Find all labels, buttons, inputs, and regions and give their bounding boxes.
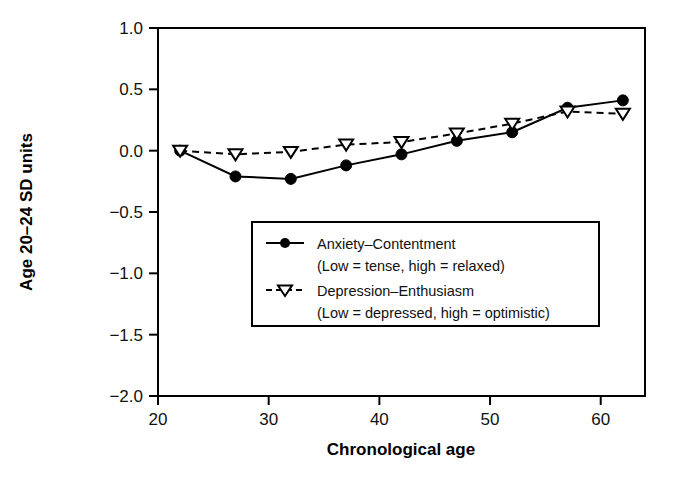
y-tick-label: 0.5	[119, 80, 143, 99]
x-axis-title: Chronological age	[327, 440, 475, 459]
y-tick-label: −1.0	[109, 264, 143, 283]
legend-sublabel-1: (Low = tense, high = relaxed)	[317, 258, 505, 274]
y-tick-label: 0.0	[119, 142, 143, 161]
x-tick-label: 30	[259, 410, 278, 429]
x-tick-label: 50	[481, 410, 500, 429]
y-tick-label: −1.5	[109, 326, 143, 345]
chart-figure: 1.00.50.0−0.5−1.0−1.5−2.0 2030405060 Age…	[0, 0, 680, 489]
y-tick-label: 1.0	[119, 19, 143, 38]
data-point-filled-circle	[396, 149, 407, 160]
x-tick-label: 60	[591, 410, 610, 429]
y-tick-label: −0.5	[109, 203, 143, 222]
line-chart: 1.00.50.0−0.5−1.0−1.5−2.0 2030405060 Age…	[0, 0, 680, 489]
data-point-filled-circle	[341, 160, 352, 171]
data-point-filled-circle	[617, 95, 628, 106]
data-point-filled-circle	[285, 173, 296, 184]
legend: Anxiety–Contentment (Low = tense, high =…	[252, 222, 599, 326]
legend-label-2: Depression–Enthusiasm	[317, 283, 474, 299]
data-point-filled-circle	[230, 171, 241, 182]
y-axis-title: Age 20–24 SD units	[17, 133, 36, 291]
y-tick-label: −2.0	[109, 387, 143, 406]
filled-circle-icon	[280, 238, 290, 248]
legend-sublabel-2: (Low = depressed, high = optimistic)	[317, 305, 550, 321]
x-tick-label: 40	[370, 410, 389, 429]
x-tick-label: 20	[149, 410, 168, 429]
legend-label-1: Anxiety–Contentment	[317, 236, 456, 252]
